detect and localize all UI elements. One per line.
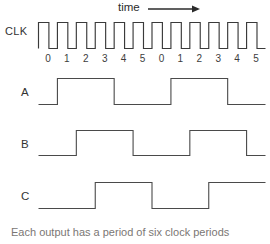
- waveform-b: [39, 131, 266, 156]
- waveform-c: [39, 183, 266, 209]
- waveform-a: [39, 79, 266, 105]
- timing-diagram-figure: time CLK A B C 012345012345 Each output …: [0, 0, 270, 244]
- caption-band: Each output has a period of six clock pe…: [0, 228, 270, 244]
- clock-waveform: [39, 23, 266, 49]
- time-arrow-icon: [148, 6, 200, 13]
- waveform-canvas: [0, 0, 270, 244]
- caption-text: Each output has a period of six clock pe…: [11, 228, 229, 238]
